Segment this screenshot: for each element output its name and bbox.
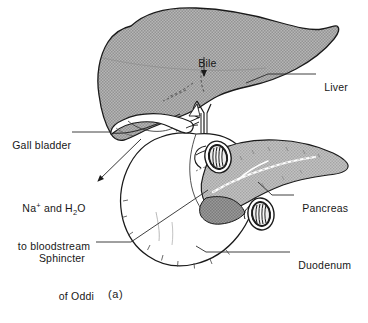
label-sphincter-of-oddi: Sphincter of Oddi bbox=[28, 227, 96, 315]
label-duodenum-text: Duodenum bbox=[298, 259, 351, 271]
figure-caption: (a) bbox=[108, 288, 123, 300]
label-duodenum: Duodenum bbox=[292, 246, 351, 271]
label-gall-bladder-text: Gall bladder bbox=[12, 139, 71, 151]
label-sphincter-line2: of Oddi bbox=[28, 290, 96, 303]
conjunction-text: and H bbox=[41, 202, 73, 214]
label-sodium-water-line1: Na+ and H2O bbox=[8, 202, 100, 215]
label-pancreas: Pancreas bbox=[296, 189, 348, 214]
sodium-symbol: Na bbox=[22, 202, 36, 214]
label-gall-bladder: Gall bladder bbox=[6, 126, 71, 151]
label-bile: Bile bbox=[192, 44, 217, 69]
oxygen-symbol: O bbox=[77, 202, 85, 214]
label-pancreas-text: Pancreas bbox=[302, 202, 348, 214]
label-bile-text: Bile bbox=[198, 57, 216, 69]
label-liver-text: Liver bbox=[324, 81, 348, 93]
label-sphincter-line1: Sphincter bbox=[28, 252, 96, 265]
label-liver: Liver bbox=[318, 68, 348, 93]
